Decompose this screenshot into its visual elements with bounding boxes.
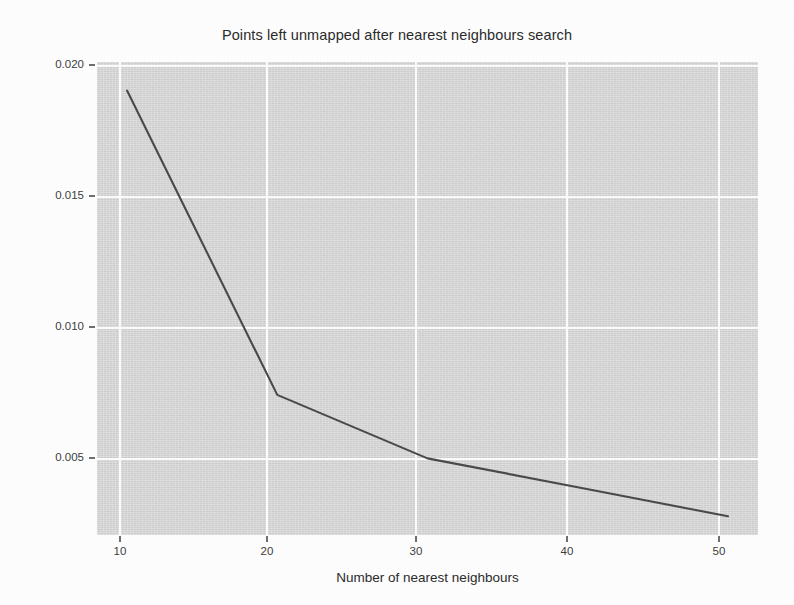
ytick-mark-0010: [89, 326, 95, 328]
x-axis-title: Number of nearest neighbours: [97, 570, 758, 585]
xtick-mark-30: [415, 536, 417, 542]
xtick-mark-40: [566, 536, 568, 542]
ytick-mark-0020: [89, 64, 95, 66]
ytick-label-0020: 0.020: [34, 58, 84, 70]
scanned-page: a and the m to the m of the ex was the s…: [0, 0, 794, 605]
data-series-layer: [97, 62, 758, 535]
ytick-label-0010: 0.010: [34, 320, 84, 332]
line-chart-figure: Points left unmapped after nearest neigh…: [0, 0, 794, 605]
ytick-label-0015: 0.015: [34, 189, 84, 201]
xtick-label-20: 20: [261, 545, 274, 557]
ytick-label-0005: 0.005: [34, 451, 84, 463]
xtick-label-40: 40: [561, 545, 574, 557]
xtick-label-10: 10: [114, 545, 127, 557]
xtick-label-30: 30: [410, 545, 423, 557]
chart-title: Points left unmapped after nearest neigh…: [0, 27, 794, 43]
xtick-mark-20: [266, 536, 268, 542]
xtick-label-50: 50: [713, 545, 726, 557]
xtick-mark-50: [718, 536, 720, 542]
ytick-mark-0015: [89, 195, 95, 197]
series-line-proportion-unmapped: [127, 91, 728, 517]
ytick-mark-0005: [89, 457, 95, 459]
xtick-mark-10: [119, 536, 121, 542]
plot-panel: [97, 62, 758, 535]
